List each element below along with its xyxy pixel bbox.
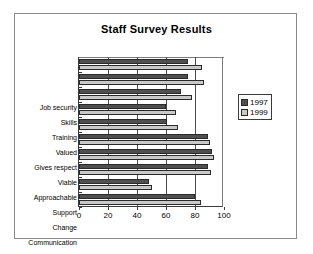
- category-label: Gives respect: [0, 164, 77, 172]
- category-label: Training: [0, 134, 77, 142]
- category-tickmarks: [79, 57, 83, 207]
- legend-item-1999[interactable]: 1999: [241, 107, 268, 117]
- bar-1999[interactable]: [79, 125, 178, 130]
- legend-swatch-1997: [241, 99, 248, 106]
- legend-swatch-1999: [241, 109, 248, 116]
- bar-group: [79, 132, 224, 147]
- category-tickmark: [79, 72, 82, 73]
- x-tickmark-100: [224, 207, 225, 210]
- bar-1997[interactable]: [79, 194, 195, 199]
- bar-1997[interactable]: [79, 179, 149, 184]
- category-label: Skills: [0, 119, 77, 127]
- bar-1999[interactable]: [79, 155, 214, 160]
- bar-group: [79, 57, 224, 72]
- chart-title: Staff Survey Results: [15, 23, 298, 35]
- bar-1999[interactable]: [79, 95, 192, 100]
- category-label: Approachable: [0, 194, 77, 202]
- category-label: Job security: [0, 104, 77, 112]
- x-tick-label-40: 40: [125, 211, 149, 220]
- category-tickmark: [79, 177, 82, 178]
- bar-group: [79, 87, 224, 102]
- bar-1997[interactable]: [79, 164, 208, 169]
- x-tick-label-100: 100: [212, 211, 236, 220]
- category-tickmark: [79, 132, 82, 133]
- bar-1999[interactable]: [79, 185, 152, 190]
- category-label: Communication: [0, 239, 77, 247]
- bar-group: [79, 117, 224, 132]
- bar-1997[interactable]: [79, 134, 208, 139]
- category-label: Change: [0, 224, 77, 232]
- category-label: Support: [0, 209, 77, 217]
- category-tickmark: [79, 102, 82, 103]
- bar-rows: [79, 57, 224, 207]
- x-tickmark-80: [195, 207, 196, 210]
- x-tickmark-20: [108, 207, 109, 210]
- x-tickmark-40: [137, 207, 138, 210]
- bar-1999[interactable]: [79, 200, 201, 205]
- x-tickmark-0: [79, 207, 80, 210]
- category-label: Valued: [0, 149, 77, 157]
- bar-group: [79, 192, 224, 207]
- chart-legend[interactable]: 1997 1999: [238, 94, 272, 120]
- category-tickmark: [79, 162, 82, 163]
- bar-group: [79, 147, 224, 162]
- bar-group: [79, 177, 224, 192]
- bar-1997[interactable]: [79, 104, 166, 109]
- legend-item-1997[interactable]: 1997: [241, 97, 268, 107]
- bar-group: [79, 162, 224, 177]
- legend-label-1999: 1999: [250, 108, 268, 117]
- bar-1999[interactable]: [79, 110, 176, 115]
- x-tick-label-80: 80: [183, 211, 207, 220]
- x-tick-label-20: 20: [96, 211, 120, 220]
- x-tickmark-60: [166, 207, 167, 210]
- bar-1999[interactable]: [79, 80, 204, 85]
- bar-1997[interactable]: [79, 89, 181, 94]
- category-tickmark: [79, 87, 82, 88]
- x-tick-label-60: 60: [154, 211, 178, 220]
- chart-frame: Staff Survey Results 020406080100 Job se…: [14, 13, 297, 239]
- category-label: Viable: [0, 179, 77, 187]
- x-axis-ticks: 020406080100: [79, 207, 224, 223]
- category-tickmark: [79, 117, 82, 118]
- category-tickmark: [79, 147, 82, 148]
- bar-1999[interactable]: [79, 140, 210, 145]
- legend-label-1997: 1997: [250, 98, 268, 107]
- bar-group: [79, 72, 224, 87]
- bar-1999[interactable]: [79, 65, 202, 70]
- bar-1997[interactable]: [79, 74, 188, 79]
- bar-1999[interactable]: [79, 170, 211, 175]
- bar-1997[interactable]: [79, 59, 188, 64]
- bar-1997[interactable]: [79, 119, 167, 124]
- bar-group: [79, 102, 224, 117]
- bar-1997[interactable]: [79, 149, 212, 154]
- plot-area: 020406080100 Job securitySkillsTrainingV…: [78, 57, 223, 207]
- category-axis-labels: Job securitySkillsTrainingValuedGives re…: [0, 100, 77, 250]
- category-tickmark: [79, 192, 82, 193]
